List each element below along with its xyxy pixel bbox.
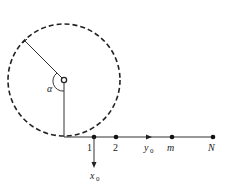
node-2 bbox=[114, 135, 119, 140]
y0-arrow-icon bbox=[146, 135, 152, 140]
x0-arrow-icon bbox=[92, 162, 97, 168]
node-m bbox=[170, 135, 175, 140]
node-label-1: 1 bbox=[87, 142, 92, 153]
radius-line bbox=[25, 41, 64, 80]
diagram-canvas: α 1 2 m N y 0 x 0 bbox=[0, 0, 226, 194]
x0-subscript: 0 bbox=[96, 175, 100, 183]
angle-label: α bbox=[47, 83, 53, 94]
node-N bbox=[211, 135, 216, 140]
node-label-2: 2 bbox=[113, 142, 118, 153]
node-label-N: N bbox=[207, 142, 216, 153]
node-label-m: m bbox=[167, 142, 174, 153]
y0-subscript: 0 bbox=[150, 147, 154, 155]
x0-label: x bbox=[89, 170, 95, 181]
y0-label: y bbox=[143, 142, 149, 153]
pivot-point bbox=[61, 77, 66, 82]
